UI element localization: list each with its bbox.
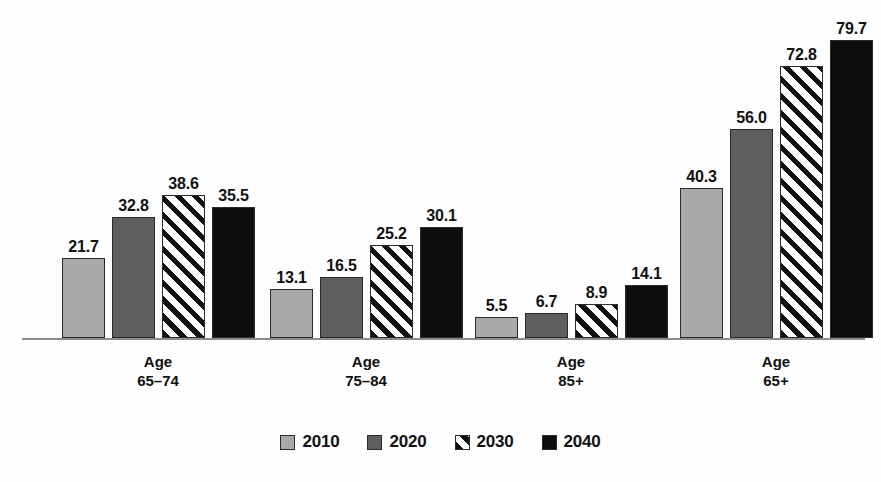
bar-value-label: 35.5: [218, 187, 248, 205]
bar-group-age-75-84: 13.1 16.5 25.2 30.1: [270, 38, 463, 338]
bar-value-label: 79.7: [836, 20, 866, 38]
bar-value-label: 56.0: [736, 109, 766, 127]
bar-value-label: 16.5: [326, 257, 356, 275]
bar-2020[interactable]: [730, 129, 773, 338]
bar-value-label: 21.7: [68, 238, 98, 256]
bar-value-label: 14.1: [631, 265, 661, 283]
bar-2030[interactable]: [575, 304, 618, 338]
bar-group-age-65-plus: 40.3 56.0 72.8 79.7: [680, 38, 873, 338]
category-label-age-85-plus: Age 85+: [471, 352, 671, 390]
legend-swatch-2010-icon: [280, 435, 295, 450]
bar-2040[interactable]: [420, 227, 463, 338]
category-label-line2: 85+: [471, 371, 671, 390]
bar-2030[interactable]: [370, 245, 413, 338]
bar-value-label: 38.6: [168, 175, 198, 193]
bar-value-label: 13.1: [276, 269, 306, 287]
bar-value-label: 30.1: [426, 207, 456, 225]
bar-value-label: 5.5: [486, 297, 508, 315]
category-label-age-65-plus: Age 65+: [676, 352, 876, 390]
bar-group-age-85-plus: 5.5 6.7 8.9 14.1: [475, 38, 668, 338]
legend-label-2030: 2030: [477, 432, 514, 452]
legend-label-2020: 2020: [389, 432, 426, 452]
bar-2040[interactable]: [625, 285, 668, 338]
category-label-line1: Age: [557, 353, 585, 370]
category-label-age-65-74: Age 65–74: [58, 352, 258, 390]
bar-value-label: 32.8: [118, 197, 148, 215]
category-label-line1: Age: [144, 353, 172, 370]
legend-item-2040[interactable]: 2040: [542, 432, 601, 452]
category-label-line2: 75–84: [266, 371, 466, 390]
chart-legend: 2010 2020 2030 2040: [0, 432, 881, 452]
bar-value-label: 6.7: [536, 293, 558, 311]
bar-2020[interactable]: [320, 277, 363, 338]
category-label-line2: 65+: [676, 371, 876, 390]
bar-2040[interactable]: [830, 40, 873, 338]
bar-2020[interactable]: [112, 217, 155, 338]
legend-swatch-2040-icon: [542, 435, 557, 450]
bar-group-age-65-74: 21.7 32.8 38.6 35.5: [62, 38, 255, 338]
category-label-line2: 65–74: [58, 371, 258, 390]
bar-2010[interactable]: [680, 188, 723, 338]
category-label-line1: Age: [352, 353, 380, 370]
legend-swatch-2030-icon: [455, 435, 470, 450]
legend-item-2020[interactable]: 2020: [367, 432, 426, 452]
legend-item-2030[interactable]: 2030: [455, 432, 514, 452]
bar-2010[interactable]: [475, 317, 518, 338]
x-axis-baseline: [22, 338, 865, 340]
category-label-age-75-84: Age 75–84: [266, 352, 466, 390]
bar-value-label: 40.3: [686, 168, 716, 186]
bar-value-label: 25.2: [376, 225, 406, 243]
bar-2040[interactable]: [212, 207, 255, 338]
legend-label-2040: 2040: [564, 432, 601, 452]
bar-2020[interactable]: [525, 313, 568, 338]
legend-item-2010[interactable]: 2010: [280, 432, 339, 452]
bar-2030[interactable]: [162, 195, 205, 338]
category-label-line1: Age: [762, 353, 790, 370]
bar-2010[interactable]: [62, 258, 105, 338]
legend-swatch-2020-icon: [367, 435, 382, 450]
bar-chart: 21.7 32.8 38.6 35.5 13.1 16.5 25.2: [0, 0, 881, 482]
bar-value-label: 8.9: [586, 284, 608, 302]
bar-2030[interactable]: [780, 66, 823, 338]
legend-label-2010: 2010: [302, 432, 339, 452]
bar-value-label: 72.8: [786, 46, 816, 64]
bar-2010[interactable]: [270, 289, 313, 338]
